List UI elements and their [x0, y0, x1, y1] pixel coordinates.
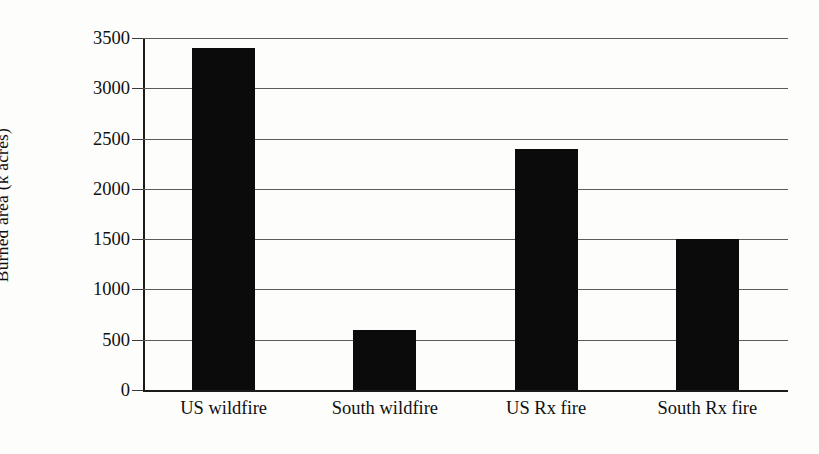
y-axis-tick-mark: [132, 139, 143, 140]
y-axis-tick-label: 1000: [52, 280, 130, 298]
y-axis-tick-label: 3500: [52, 29, 130, 47]
y-axis-tick-mark: [132, 239, 143, 240]
y-axis-tick-mark: [132, 289, 143, 290]
y-axis-tick-mark: [132, 38, 143, 39]
y-axis-tick-mark: [132, 390, 143, 391]
bar: [192, 48, 255, 390]
y-axis-tick-label: 3000: [52, 79, 130, 97]
y-axis-tick-mark: [132, 340, 143, 341]
y-axis-tick-labels: 0500100015002000250030003500: [52, 0, 130, 454]
bar: [515, 149, 578, 390]
gridline: [143, 38, 788, 39]
x-axis-baseline: [143, 390, 788, 392]
plot-area: [143, 38, 788, 390]
y-axis-tick-label: 500: [52, 331, 130, 349]
y-axis-tick-label: 2500: [52, 130, 130, 148]
y-axis-title-text: Burned area (k acres): [0, 128, 13, 282]
bar-chart-figure: Burned area (k acres) 050010001500200025…: [0, 0, 819, 454]
x-axis-tick-label: South Rx fire: [658, 396, 758, 420]
y-axis-tick-label: 0: [52, 381, 130, 399]
y-axis-tick-label: 2000: [52, 180, 130, 198]
x-axis-tick-label: South wildfire: [332, 396, 438, 420]
y-axis-tick-mark: [132, 88, 143, 89]
bar: [353, 330, 416, 390]
x-axis-tick-labels: US wildfireSouth wildfireUS Rx fireSouth…: [143, 396, 788, 426]
x-axis-tick-label: US Rx fire: [506, 396, 586, 420]
y-axis-title: Burned area (k acres): [0, 0, 48, 454]
y-axis-tick-label: 1500: [52, 230, 130, 248]
y-axis-tick-mark: [132, 189, 143, 190]
bar: [676, 239, 739, 390]
x-axis-tick-label: US wildfire: [180, 396, 267, 420]
